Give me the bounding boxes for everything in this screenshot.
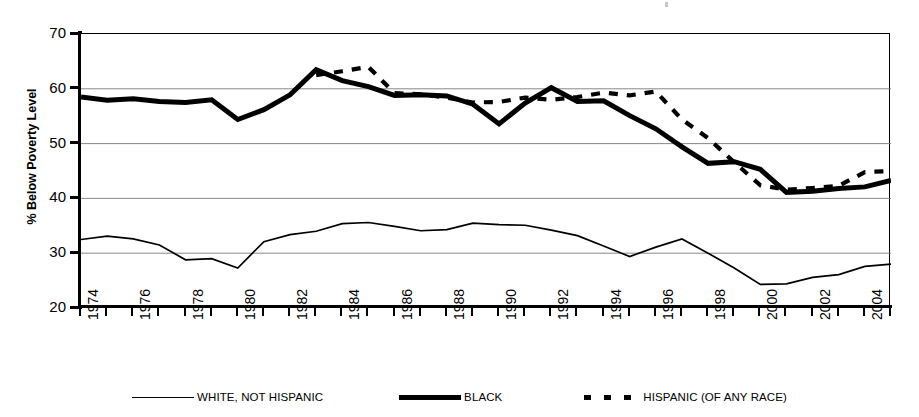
y-axis-tick-label: 40 <box>32 189 66 204</box>
y-axis-tick-label: 70 <box>32 25 66 40</box>
x-axis-tick-label: 1990 <box>504 289 518 320</box>
x-axis-tick <box>366 308 368 316</box>
legend-label: HISPANIC (OF ANY RACE) <box>643 391 787 403</box>
x-axis-tick <box>549 308 551 316</box>
x-axis-tick <box>889 308 891 316</box>
x-axis-tick <box>758 308 760 316</box>
x-axis-tick-label: 1988 <box>452 289 466 320</box>
x-axis-tick <box>497 308 499 316</box>
x-axis-tick <box>602 308 604 316</box>
series-line-thick-solid <box>81 70 891 193</box>
x-axis-tick <box>680 308 682 316</box>
legend-swatch-thick-solid <box>399 395 461 400</box>
x-axis-tick-label: 1978 <box>191 289 205 320</box>
legend-label: BLACK <box>464 391 502 403</box>
x-axis-tick-label: 1974 <box>86 289 100 320</box>
x-axis-tick-label: 1986 <box>400 289 414 320</box>
x-axis-tick <box>419 308 421 316</box>
plot-svg <box>81 34 891 308</box>
legend-item[interactable]: WHITE, NOT HISPANIC <box>132 391 323 403</box>
x-axis-tick <box>157 308 159 316</box>
y-axis-labels: 706050403020 <box>28 0 66 417</box>
x-axis-tick <box>262 308 264 316</box>
legend-item[interactable]: HISPANIC (OF ANY RACE) <box>578 391 787 403</box>
x-axis-tick <box>654 308 656 316</box>
x-axis-tick <box>628 308 630 316</box>
y-axis-tick-label: 30 <box>32 244 66 259</box>
y-axis-tick-label: 50 <box>32 135 66 150</box>
chart-legend: WHITE, NOT HISPANICBLACKHISPANIC (OF ANY… <box>0 386 919 408</box>
x-axis-tick <box>210 308 212 316</box>
legend-label: WHITE, NOT HISPANIC <box>197 391 323 403</box>
x-axis-tick <box>131 308 133 316</box>
x-axis-tick-label: 2000 <box>765 289 779 320</box>
x-axis-tick <box>288 308 290 316</box>
x-axis-tick <box>784 308 786 316</box>
plot-area <box>80 33 890 307</box>
x-axis-tick <box>706 308 708 316</box>
legend-swatch-thin-solid <box>132 397 194 398</box>
x-axis-tick-label: 1992 <box>556 289 570 320</box>
x-axis-tick <box>837 308 839 316</box>
x-axis-tick <box>340 308 342 316</box>
x-axis-tick-label: 1982 <box>295 289 309 320</box>
x-axis-tick-label: 1998 <box>713 289 727 320</box>
x-axis-tick <box>575 308 577 316</box>
x-axis-tick-label: 1996 <box>661 289 675 320</box>
x-axis-tick <box>471 308 473 316</box>
x-axis-tick <box>184 308 186 316</box>
x-axis-tick-label: 1994 <box>609 289 623 320</box>
series-line-dashed <box>316 67 891 190</box>
x-axis-tick-label: 2004 <box>870 289 884 320</box>
x-axis-tick <box>105 308 107 316</box>
x-axis-tick <box>314 308 316 316</box>
x-axis-tick <box>445 308 447 316</box>
x-axis-tick-label: 2002 <box>818 289 832 320</box>
y-axis-tick-label: 20 <box>32 299 66 314</box>
x-axis-tick <box>732 308 734 316</box>
scan-artifact-speck <box>665 2 668 7</box>
x-axis-tick-label: 1984 <box>347 289 361 320</box>
x-axis-tick <box>79 308 81 316</box>
chart-figure: % Below Poverty Level 706050403020 19741… <box>0 0 919 417</box>
x-axis-tick-label: 1980 <box>243 289 257 320</box>
x-axis-tick <box>236 308 238 316</box>
y-axis-tick-label: 60 <box>32 80 66 95</box>
x-axis-tick <box>811 308 813 316</box>
x-axis-tick <box>863 308 865 316</box>
x-axis-tick <box>393 308 395 316</box>
legend-swatch-dashed <box>578 395 640 400</box>
x-axis-tick <box>523 308 525 316</box>
x-axis-tick-label: 1976 <box>138 289 152 320</box>
legend-item[interactable]: BLACK <box>399 391 502 403</box>
